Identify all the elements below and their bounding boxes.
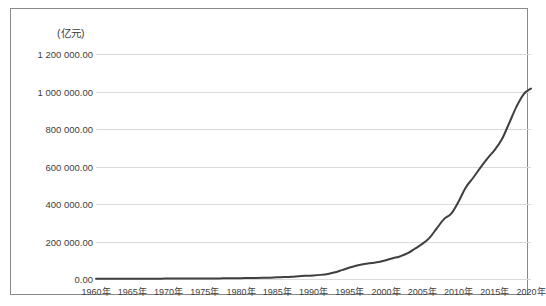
x-axis-tick-label: 2010年 [444,285,473,298]
x-axis-tick-label: 1990年 [299,285,328,298]
y-axis-tick-label: 400 000.00 [15,199,93,210]
y-axis-tick-label: 1 000 000.00 [15,86,93,97]
x-axis-tick-label: 2000年 [371,285,400,298]
x-axis-tick-label: 2005年 [408,285,437,298]
line-series-svg [96,54,531,279]
y-axis-tick-label: 800 000.00 [15,124,93,135]
x-axis-tick-label: 1985年 [263,285,292,298]
y-axis-tick-label: 200 000.00 [15,236,93,247]
chart-frame: (亿元) 0.00200 000.00400 000.00600 000.008… [10,8,528,295]
plot-area [96,54,531,279]
y-axis-tick-label: 600 000.00 [15,161,93,172]
line-series-path [96,89,531,279]
y-axis-tick-label: 1 200 000.00 [15,49,93,60]
x-axis-tick-label: 2015年 [480,285,509,298]
x-axis-tick-label: 1980年 [226,285,255,298]
y-axis-tick-labels: 0.00200 000.00400 000.00600 000.00800 00… [11,54,93,279]
x-axis-tick-label: 1970年 [154,285,183,298]
x-axis-tick-labels: 1960年1965年1970年1975年1980年1985年1990年1995年… [96,285,531,301]
x-axis-tick-label: 1995年 [335,285,364,298]
x-axis-tick-label: 1975年 [190,285,219,298]
y-axis-tick-label: 0.00 [15,274,93,285]
y-axis-unit-label: (亿元) [57,25,85,40]
x-axis-tick-label: 1965年 [118,285,147,298]
x-axis-tick-label: 2020年 [516,285,545,298]
x-axis-tick-label: 1960年 [81,285,110,298]
